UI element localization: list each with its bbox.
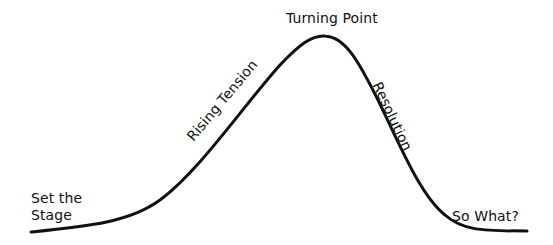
label-set-the-stage: Set the Stage: [31, 190, 91, 224]
label-set-the-stage-line1: Set the: [31, 190, 82, 206]
label-turning-point: Turning Point: [286, 10, 378, 27]
arc-line: [31, 36, 527, 232]
label-so-what: So What?: [452, 208, 519, 225]
story-arc-diagram: Set the Stage Rising Tension Turning Poi…: [0, 0, 553, 245]
label-set-the-stage-line2: Stage: [31, 207, 72, 223]
